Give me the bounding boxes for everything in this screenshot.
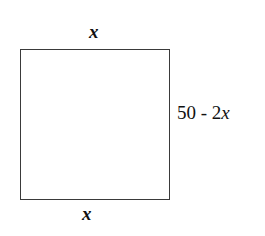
right-side-label-variable: x: [221, 102, 229, 123]
rectangle: [20, 49, 170, 200]
bottom-side-label: x: [82, 204, 92, 223]
right-side-label: 50 - 2x: [177, 103, 230, 122]
right-side-label-constant: 50 - 2: [177, 102, 221, 123]
top-side-label: x: [89, 22, 99, 41]
